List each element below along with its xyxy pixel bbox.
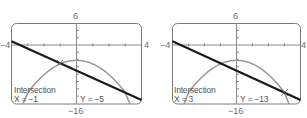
y-readout: Y = −5 (80, 95, 104, 104)
xmax-label: 4 (144, 41, 149, 50)
ymin-label: −16 (68, 107, 83, 116)
y-readout: Y = −13 (240, 95, 268, 104)
ymin-label: −16 (228, 107, 243, 116)
xmin-label: −4 (0, 41, 10, 50)
ymax-label: 6 (73, 12, 78, 21)
xmin-label: −4 (160, 41, 170, 50)
ymax-label: 6 (233, 12, 238, 21)
xmax-label: 4 (301, 41, 306, 50)
x-readout: X = −1 (14, 95, 38, 104)
x-readout: X = 3 (174, 95, 193, 104)
graph-panel-left: 6 −4 4 −16 Intersection X = −1 Y = −5 (0, 0, 152, 118)
graph-panel-right: 6 −4 4 −16 Intersection X = 3 Y = −13 (155, 0, 307, 118)
